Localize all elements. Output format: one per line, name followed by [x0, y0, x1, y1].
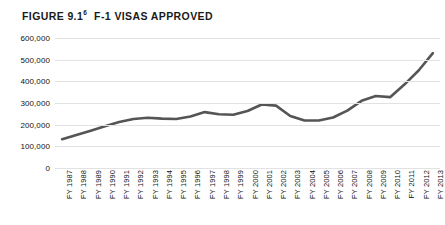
x-tick-label: FY 1993: [151, 170, 160, 199]
figure-title: FIGURE 9.16F-1 VISAS APPROVED: [22, 6, 213, 23]
plot-area: 600,000500,000400,000300,000200,000100,0…: [0, 38, 442, 178]
x-tick-label: FY 2012: [422, 170, 431, 199]
x-tick-label: FY 1989: [94, 170, 103, 199]
x-tick-label: FY 1992: [136, 170, 145, 199]
gridline: [55, 103, 440, 104]
y-axis: 600,000500,000400,000300,000200,000100,0…: [0, 38, 55, 168]
x-tick-label: FY 2001: [265, 170, 274, 199]
x-tick-label: FY 1987: [65, 170, 74, 199]
x-tick-label: FY 2002: [279, 170, 288, 199]
figure-number: FIGURE 9.1: [22, 10, 83, 22]
figure-footnote-marker: 6: [83, 9, 87, 16]
y-tick-label: 400,000: [20, 77, 50, 86]
gridline: [55, 81, 440, 82]
gridline: [55, 146, 440, 147]
x-tick-label: FY 2009: [379, 170, 388, 199]
x-tick-label: FY 2004: [308, 170, 317, 199]
x-tick-label: FY 2008: [365, 170, 374, 199]
gridline: [55, 168, 440, 169]
x-tick-label: FY 1988: [79, 170, 88, 199]
x-tick-label: FY 2003: [293, 170, 302, 199]
x-tick-label: FY 1994: [165, 170, 174, 199]
x-tick-label: FY 2006: [336, 170, 345, 199]
x-tick-label: FY 1996: [193, 170, 202, 199]
y-tick-label: 200,000: [20, 120, 50, 129]
x-tick-label: FY 2010: [393, 170, 402, 199]
x-tick-label: FY 1995: [179, 170, 188, 199]
x-tick-label: FY 1997: [208, 170, 217, 199]
y-tick-label: 600,000: [20, 34, 50, 43]
x-tick-label: FY 2000: [251, 170, 260, 199]
y-tick-label: 500,000: [20, 55, 50, 64]
x-axis: FY 1987FY 1988FY 1989FY 1990FY 1991FY 19…: [55, 170, 440, 224]
gridline: [55, 125, 440, 126]
x-tick-label: FY 2007: [350, 170, 359, 199]
x-tick-label: FY 1990: [108, 170, 117, 199]
x-tick-label: FY 1998: [222, 170, 231, 199]
gridline: [55, 38, 440, 39]
x-tick-label: FY 1991: [122, 170, 131, 199]
gridline: [55, 60, 440, 61]
series-line: [62, 53, 433, 139]
x-tick-label: FY 1999: [236, 170, 245, 199]
y-tick-label: 300,000: [20, 99, 50, 108]
x-tick-label: FY 2005: [322, 170, 331, 199]
x-tick-label: FY 2011: [407, 170, 416, 198]
grid-area: [55, 38, 440, 168]
x-tick-label: FY 2013: [436, 170, 445, 199]
y-tick-label: 0: [45, 164, 50, 173]
figure-title-text: F-1 VISAS APPROVED: [94, 10, 213, 22]
y-tick-label: 100,000: [20, 142, 50, 151]
